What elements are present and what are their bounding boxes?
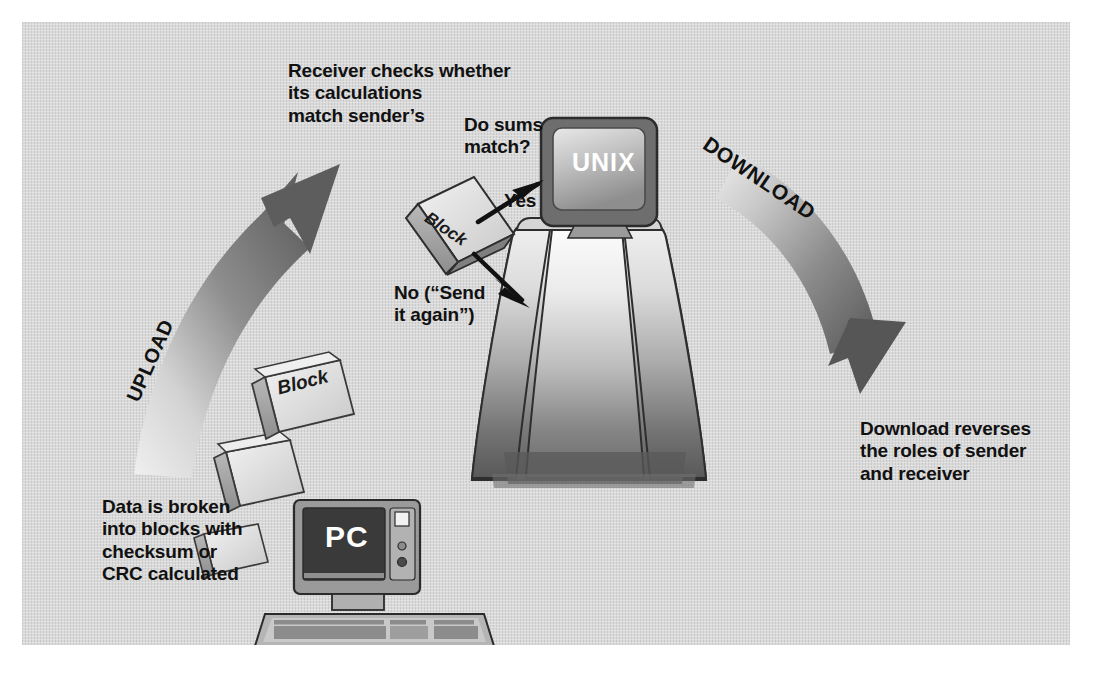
pc-screen-text: PC — [325, 520, 369, 554]
label-download-reverses: Download reverses the roles of sender an… — [860, 418, 1031, 485]
label-do-sums-match: Do sums match? — [464, 114, 543, 159]
unix-screen-text: UNIX — [572, 148, 636, 177]
label-data-broken: Data is broken into blocks with checksum… — [102, 496, 242, 586]
download-arrow — [716, 154, 906, 394]
label-yes: Yes — [504, 190, 536, 212]
unix-tower — [472, 218, 706, 488]
figure-root: Receiver checks whether its calculations… — [0, 0, 1094, 677]
unix-monitor — [541, 118, 657, 238]
label-no-send-again: No (“Send it again”) — [394, 282, 485, 327]
block-shape-top — [252, 352, 354, 439]
pc-computer — [255, 500, 494, 645]
diagram-panel: Receiver checks whether its calculations… — [22, 22, 1070, 645]
